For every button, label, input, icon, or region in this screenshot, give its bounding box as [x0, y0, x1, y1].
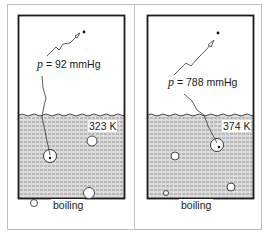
pressure-value: 92 mmHg: [55, 58, 101, 70]
pressure-value: 788 mmHg: [186, 76, 237, 88]
pressure-label-left: p = 92 mmHg: [37, 58, 101, 70]
temperature-label-left: 323 K: [88, 120, 117, 132]
boiling-label-right: boiling: [179, 199, 213, 211]
boiling-label-left: boiling: [51, 199, 85, 211]
equals-sign: =: [46, 58, 52, 70]
pressure-label-right: p = 788 mmHg: [168, 76, 237, 88]
equals-sign: =: [177, 76, 183, 88]
pressure-symbol: p: [37, 57, 43, 71]
panel-left: p = 92 mmHg 323 K boiling: [0, 0, 134, 235]
panel-right: p = 788 mmHg 374 K boiling: [134, 0, 268, 235]
pressure-symbol: p: [168, 75, 174, 89]
temperature-label-right: 374 K: [222, 120, 251, 132]
